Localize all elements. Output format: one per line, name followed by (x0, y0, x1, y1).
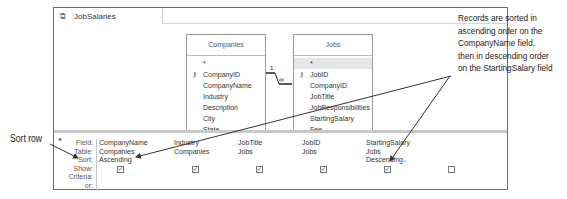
callout-arrows (0, 0, 567, 199)
